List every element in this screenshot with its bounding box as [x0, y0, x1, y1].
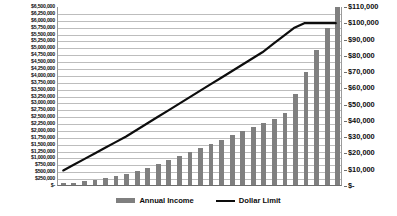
- left-axis-tick-label: $5,750,000: [31, 25, 55, 30]
- right-axis-tick-label: $60,000: [348, 85, 375, 92]
- right-value-axis: $110,000$100,000$90,000$80,000$70,000$60…: [344, 7, 397, 186]
- right-axis-tick-label: $-: [348, 182, 355, 189]
- left-axis-tick-label: $4,250,000: [31, 66, 55, 71]
- right-axis-tick-label: $20,000: [348, 150, 375, 157]
- left-axis-tick-label: $5,000,000: [31, 46, 55, 51]
- chart-container: $6,500,000$6,250,000$6,000,000$5,750,000…: [0, 0, 397, 216]
- left-axis-tick-label: $3,250,000: [31, 94, 55, 99]
- right-axis-tick-mark: [344, 23, 347, 24]
- legend-label-annual-income: Annual Income: [139, 196, 193, 205]
- left-axis-tick-label: $2,000,000: [31, 128, 55, 133]
- chart-legend: Annual Income Dollar Limit: [0, 196, 397, 205]
- line-series-dollar-limit: [58, 7, 341, 185]
- left-axis-tick-label: $4,750,000: [31, 53, 55, 58]
- left-axis-tick-label: $1,000,000: [31, 156, 55, 161]
- right-axis-tick-label: $80,000: [348, 52, 375, 59]
- right-axis-tick-mark: [344, 40, 347, 41]
- right-axis-tick-mark: [344, 72, 347, 73]
- left-axis-tick-label: $3,500,000: [31, 87, 55, 92]
- right-axis-tick-mark: [344, 105, 347, 106]
- left-axis-tick-label: $1,750,000: [31, 135, 55, 140]
- legend-line-swatch-icon: [216, 200, 235, 202]
- legend-bar-swatch-icon: [116, 198, 135, 203]
- right-axis-tick-mark: [344, 121, 347, 122]
- left-axis-tick-label: $3,750,000: [31, 80, 55, 85]
- legend-label-dollar-limit: Dollar Limit: [239, 196, 281, 205]
- right-axis-tick-label: $110,000: [348, 3, 378, 10]
- right-axis-tick-mark: [344, 88, 347, 89]
- right-axis-tick-label: $50,000: [348, 101, 375, 108]
- left-axis-tick-label: $2,500,000: [31, 115, 55, 120]
- right-axis-tick-label: $100,000: [348, 20, 379, 27]
- left-axis-tick-label: $1,500,000: [31, 142, 55, 147]
- left-axis-tick-label: $5,250,000: [31, 39, 55, 44]
- left-axis-tick-label: $4,500,000: [31, 59, 55, 64]
- right-axis-tick-mark: [344, 137, 347, 138]
- left-axis-tick-label: $250,000: [35, 177, 55, 182]
- left-axis-tick-label: $2,250,000: [31, 121, 55, 126]
- right-axis-tick-label: $10,000: [348, 166, 375, 173]
- right-axis-tick-mark: [344, 56, 347, 57]
- right-axis-tick-label: $90,000: [348, 36, 375, 43]
- legend-item-dollar-limit: Dollar Limit: [216, 196, 281, 205]
- left-axis-tick-label: $750,000: [35, 163, 55, 168]
- left-axis-tick-label: $2,750,000: [31, 108, 55, 113]
- left-axis-tick-label: $6,500,000: [31, 4, 55, 9]
- legend-item-annual-income: Annual Income: [116, 196, 193, 205]
- right-axis-tick-label: $40,000: [348, 117, 375, 124]
- left-axis-tick-label: $-: [51, 183, 55, 188]
- left-axis-tick-label: $6,000,000: [31, 18, 55, 23]
- right-axis-tick-mark: [344, 186, 347, 187]
- left-axis-tick-label: $6,250,000: [31, 11, 55, 16]
- left-value-axis: $6,500,000$6,250,000$6,000,000$5,750,000…: [0, 7, 57, 186]
- right-axis-tick-label: $70,000: [348, 68, 375, 75]
- left-axis-tick-label: $3,000,000: [31, 101, 55, 106]
- left-axis-tick-label: $1,250,000: [31, 149, 55, 154]
- right-axis-tick-mark: [344, 170, 347, 171]
- left-axis-tick-label: $500,000: [35, 170, 55, 175]
- left-axis-tick-label: $4,000,000: [31, 73, 55, 78]
- right-axis-tick-mark: [344, 7, 347, 8]
- left-axis-tick-label: $5,500,000: [31, 32, 55, 37]
- right-axis-tick-label: $30,000: [348, 133, 375, 140]
- right-axis-tick-mark: [344, 153, 347, 154]
- plot-area: [57, 7, 342, 186]
